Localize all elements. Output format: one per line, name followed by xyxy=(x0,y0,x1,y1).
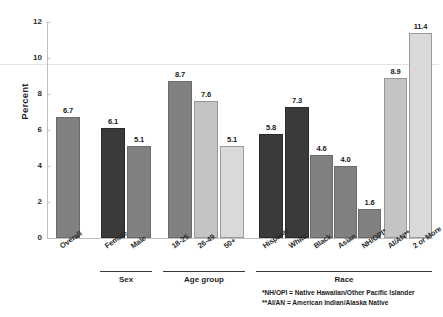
bar xyxy=(409,33,432,238)
bar-value-label: 8.9 xyxy=(380,67,411,76)
group-label: Age group xyxy=(163,275,245,284)
bar-value-label: 5.8 xyxy=(255,123,287,132)
bar-value-label: 11.4 xyxy=(405,22,436,31)
bar-value-label: 6.7 xyxy=(52,106,84,115)
bar-value-label: 5.1 xyxy=(216,135,248,144)
bar-value-label: 4.6 xyxy=(306,144,337,153)
y-tick-label: 8 xyxy=(22,89,42,98)
footnote-nhopi: *NH/OPI = Native Hawaiian/Other Pacific … xyxy=(262,288,415,298)
bar xyxy=(220,146,244,238)
bar-value-label: 7.6 xyxy=(190,90,222,99)
bar-value-label: 1.6 xyxy=(354,198,385,207)
group-label: Race xyxy=(256,275,432,284)
group-bracket-line xyxy=(163,271,245,272)
y-tick-label: 12 xyxy=(22,17,42,26)
group-bracket-line xyxy=(100,271,152,272)
y-tick-label: 6 xyxy=(22,125,42,134)
bar xyxy=(127,146,151,238)
bar xyxy=(194,101,218,238)
bar-value-label: 6.1 xyxy=(97,117,129,126)
y-tick-label: 2 xyxy=(22,197,42,206)
chart-footnotes: *NH/OPI = Native Hawaiian/Other Pacific … xyxy=(262,288,415,307)
bar-value-label: 5.1 xyxy=(123,135,155,144)
y-tick-label: 10 xyxy=(22,53,42,62)
bar-value-label: 7.3 xyxy=(281,96,313,105)
bar xyxy=(310,155,333,238)
bar-value-label: 4.0 xyxy=(330,155,361,164)
bar xyxy=(56,117,80,238)
bar xyxy=(285,107,309,238)
bar xyxy=(168,81,192,238)
y-tick-mark xyxy=(47,238,50,239)
bar xyxy=(101,128,125,238)
footnote-aian: **AI/AN = American Indian/Alaska Native xyxy=(262,298,415,308)
group-bracket-line xyxy=(256,271,432,272)
bar xyxy=(259,134,283,238)
bar-value-label: 8.7 xyxy=(164,70,196,79)
y-tick-label: 0 xyxy=(22,233,42,242)
plot-area: 6.76.15.18.77.65.15.87.34.64.01.68.911.4 xyxy=(47,22,432,238)
bar xyxy=(384,78,407,238)
group-label: Sex xyxy=(100,275,152,284)
y-tick-label: 4 xyxy=(22,161,42,170)
